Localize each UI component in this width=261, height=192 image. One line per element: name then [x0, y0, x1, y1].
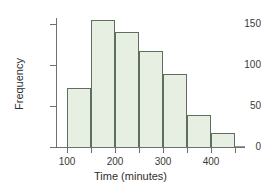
x-tick-250	[139, 148, 140, 153]
bar-400-450	[211, 133, 235, 148]
bar-350-400	[187, 115, 211, 148]
x-axis-title: Time (minutes)	[0, 170, 261, 182]
x-tick-450	[235, 148, 236, 153]
x-tick-300	[163, 148, 164, 153]
x-tick-400	[211, 148, 212, 153]
x-tick-label-200: 200	[95, 156, 135, 167]
x-tick-label-100: 100	[47, 156, 87, 167]
y-tick-100	[50, 65, 56, 66]
y-tick-150	[50, 24, 56, 25]
y-tick-label-150: 150	[217, 19, 261, 29]
x-tick-350	[187, 148, 188, 153]
y-tick-label-50: 50	[217, 101, 261, 111]
plot-area: 150 100 50 0 100 200 300 400 Time (minut…	[0, 0, 261, 192]
y-axis-title: Frequency	[13, 24, 25, 144]
x-tick-200	[115, 148, 116, 153]
y-tick-label-100: 100	[217, 60, 261, 70]
y-tick-50	[50, 106, 56, 107]
x-tick-label-400: 400	[191, 156, 231, 167]
histogram-chart: 150 100 50 0 100 200 300 400 Time (minut…	[0, 0, 261, 192]
bar-100-150	[67, 88, 91, 148]
bar-150-200	[91, 20, 115, 148]
bar-200-250	[115, 32, 139, 148]
x-tick-label-300: 300	[143, 156, 183, 167]
x-axis-line	[56, 147, 245, 148]
x-tick-100	[67, 148, 68, 153]
x-tick-150	[91, 148, 92, 153]
y-axis-line	[56, 18, 57, 148]
bar-300-350	[163, 74, 187, 148]
bar-250-300	[139, 51, 163, 148]
